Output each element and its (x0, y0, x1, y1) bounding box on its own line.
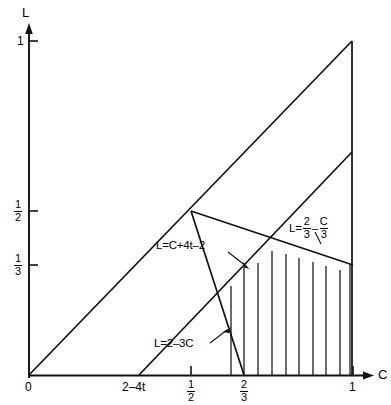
line-L-equals-2-minus-3C (191, 211, 244, 375)
x-axis-label: C (378, 368, 387, 381)
leader-arrow-c4t (228, 252, 250, 269)
x-tick-label-two-thirds: 2 3 (239, 379, 249, 404)
x-tick-label-1: 1 (349, 381, 356, 393)
y-tick-label-one-half: 1 2 (13, 199, 23, 224)
y-axis (25, 23, 33, 378)
leader-arrow-23c (210, 327, 231, 343)
line-L-equals-C (29, 41, 352, 375)
eq-operator: – (312, 223, 318, 235)
fraction-c-over-three: C 3 (319, 216, 329, 241)
x-tick-label-one-half: 1 2 (186, 379, 196, 404)
fraction-two-thirds-x: 2 3 (240, 379, 248, 404)
y-axis-ticks (29, 41, 38, 265)
math-diagram-canvas: L C 1 1 2 1 3 0 2–4t 1 2 2 3 1 L=C+4t–2 … (0, 0, 391, 405)
line-label-23c: L=2–3C (154, 338, 193, 350)
fraction-one-third: 1 3 (14, 253, 22, 278)
fraction-two-thirds: 2 3 (303, 216, 311, 241)
x-axis (29, 372, 374, 380)
fraction-one-half-x: 1 2 (187, 379, 195, 404)
y-axis-label: L (22, 6, 29, 19)
y-tick-label-one-third: 1 3 (13, 253, 23, 278)
x-tick-label-0: 0 (25, 381, 32, 393)
line-label-c4t: L=C+4t–2 (156, 240, 205, 252)
equation-two-thirds-minus-c-over-three: L= 2 3 – C 3 (289, 216, 330, 241)
plot-svg (0, 0, 391, 405)
line-label-frac: L= 2 3 – C 3 (289, 216, 330, 241)
eq-prefix: L= (289, 223, 302, 235)
x-tick-label-2-minus-4t: 2–4t (122, 381, 145, 393)
fraction-one-half: 1 2 (14, 199, 22, 224)
hatched-region (231, 251, 350, 375)
y-tick-label-1: 1 (17, 35, 24, 47)
